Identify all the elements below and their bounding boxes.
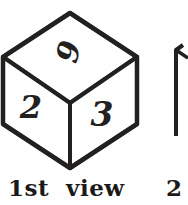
isometric-cube: 6 2 3 — [3, 13, 137, 168]
figure-caption-next: 2 — [166, 176, 182, 199]
cube-digit-left: 2 — [19, 88, 42, 126]
figure-canvas: 6 2 3 1st view 2 — [0, 0, 188, 205]
cube-digit-right: 3 — [91, 95, 114, 134]
partial-cube-right — [176, 45, 188, 136]
partial-cube-edge — [176, 45, 183, 136]
figure-caption-1st-view: 1st view — [8, 176, 125, 199]
